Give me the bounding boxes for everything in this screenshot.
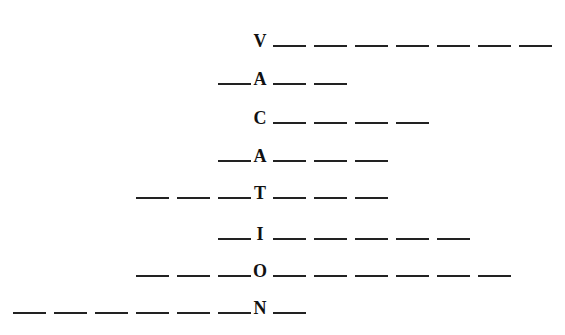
letter-blank[interactable]	[273, 45, 306, 47]
right-blanks	[273, 197, 388, 199]
key-letter: T	[252, 183, 268, 203]
key-letter: A	[252, 146, 268, 166]
puzzle-row: C	[0, 104, 565, 128]
letter-blank[interactable]	[273, 275, 306, 277]
letter-blank[interactable]	[314, 160, 347, 162]
letter-blank[interactable]	[355, 238, 388, 240]
letter-blank[interactable]	[437, 275, 470, 277]
right-blanks	[273, 160, 388, 162]
letter-blank[interactable]	[136, 197, 169, 199]
letter-blank[interactable]	[355, 122, 388, 124]
letter-blank[interactable]	[273, 197, 306, 199]
puzzle-row: N	[0, 294, 565, 318]
right-blanks	[273, 238, 470, 240]
left-blanks	[13, 312, 251, 314]
letter-blank[interactable]	[314, 122, 347, 124]
letter-blank[interactable]	[273, 122, 306, 124]
letter-blank[interactable]	[177, 275, 210, 277]
left-blanks	[218, 238, 251, 240]
letter-blank[interactable]	[218, 312, 251, 314]
letter-blank[interactable]	[396, 275, 429, 277]
letter-blank[interactable]	[218, 160, 251, 162]
left-blanks	[218, 83, 251, 85]
letter-blank[interactable]	[519, 45, 552, 47]
letter-blank[interactable]	[54, 312, 87, 314]
key-letter: O	[252, 261, 268, 281]
puzzle-row: T	[0, 179, 565, 203]
letter-blank[interactable]	[355, 275, 388, 277]
letter-blank[interactable]	[314, 197, 347, 199]
letter-blank[interactable]	[355, 45, 388, 47]
letter-blank[interactable]	[478, 275, 511, 277]
right-blanks	[273, 275, 511, 277]
right-blanks	[273, 312, 306, 314]
letter-blank[interactable]	[314, 238, 347, 240]
puzzle-row: V	[0, 27, 565, 51]
letter-blank[interactable]	[136, 275, 169, 277]
key-letter: I	[252, 224, 268, 244]
letter-blank[interactable]	[273, 238, 306, 240]
letter-blank[interactable]	[177, 197, 210, 199]
key-letter: N	[252, 298, 268, 318]
letter-blank[interactable]	[314, 45, 347, 47]
left-blanks	[136, 197, 251, 199]
puzzle-row: O	[0, 257, 565, 281]
key-letter: A	[252, 69, 268, 89]
letter-blank[interactable]	[314, 275, 347, 277]
letter-blank[interactable]	[437, 238, 470, 240]
letter-blank[interactable]	[218, 275, 251, 277]
letter-blank[interactable]	[396, 45, 429, 47]
letter-blank[interactable]	[273, 83, 306, 85]
letter-blank[interactable]	[355, 197, 388, 199]
letter-blank[interactable]	[396, 122, 429, 124]
letter-blank[interactable]	[478, 45, 511, 47]
letter-blank[interactable]	[314, 83, 347, 85]
letter-blank[interactable]	[218, 238, 251, 240]
letter-blank[interactable]	[95, 312, 128, 314]
letter-blank[interactable]	[273, 160, 306, 162]
left-blanks	[218, 160, 251, 162]
letter-blank[interactable]	[136, 312, 169, 314]
letter-blank[interactable]	[218, 197, 251, 199]
left-blanks	[136, 275, 251, 277]
right-blanks	[273, 122, 429, 124]
puzzle-row: A	[0, 142, 565, 166]
right-blanks	[273, 83, 347, 85]
letter-blank[interactable]	[355, 160, 388, 162]
key-letter: C	[252, 108, 268, 128]
letter-blank[interactable]	[177, 312, 210, 314]
puzzle-row: A	[0, 65, 565, 89]
letter-blank[interactable]	[273, 312, 306, 314]
right-blanks	[273, 45, 552, 47]
letter-blank[interactable]	[13, 312, 46, 314]
letter-blank[interactable]	[396, 238, 429, 240]
letter-blank[interactable]	[218, 83, 251, 85]
puzzle-row: I	[0, 220, 565, 244]
key-letter: V	[252, 31, 268, 51]
letter-blank[interactable]	[437, 45, 470, 47]
